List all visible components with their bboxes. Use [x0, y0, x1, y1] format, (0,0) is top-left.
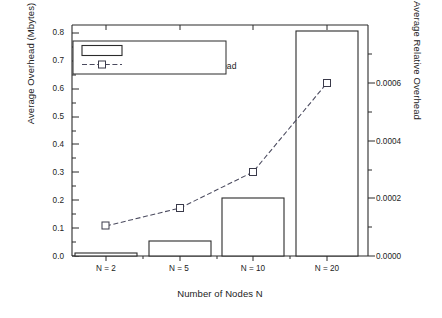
- bar-n2: [75, 253, 137, 256]
- bar-n20: [296, 31, 358, 256]
- legend: [73, 41, 226, 74]
- line-marker-n10: [250, 169, 257, 176]
- y-axis-right-ticks: [368, 54, 375, 256]
- legend-swatch-bar: [82, 46, 122, 56]
- line-marker-n2: [102, 222, 109, 229]
- line-marker-n5: [177, 205, 184, 212]
- line-marker-n20: [324, 80, 331, 87]
- x-axis-top-ticks: [106, 25, 327, 30]
- bar-n5: [149, 241, 211, 256]
- bar-n10: [222, 198, 284, 256]
- chart-figure: Average Overhead (Mbytes) Average Relati…: [0, 0, 442, 318]
- x-axis-ticks: [106, 256, 327, 261]
- plot-canvas: [0, 0, 442, 318]
- legend-swatch-marker: [99, 61, 106, 68]
